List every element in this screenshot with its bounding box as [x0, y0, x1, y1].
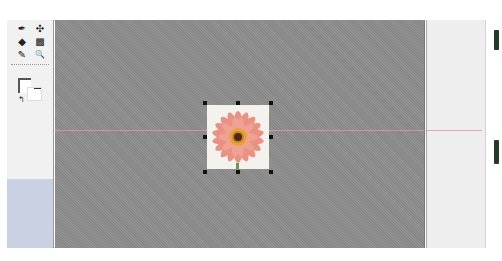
- resize-handle-bottom-left[interactable]: [203, 170, 207, 174]
- resize-handle-left[interactable]: [203, 135, 207, 139]
- side-marker-bottom: [494, 140, 499, 164]
- toolbox-panel: ✒ ✣ ◆ ▩ ✎ 🔍 ↰: [7, 20, 54, 248]
- resize-handle-bottom[interactable]: [236, 170, 240, 174]
- pen-tool-icon[interactable]: ✒: [13, 22, 31, 35]
- resize-handle-top-right[interactable]: [269, 101, 273, 105]
- eyedropper-tool-icon[interactable]: ✎: [13, 48, 31, 61]
- toolbox-blue-region: [7, 179, 53, 248]
- gradient-tool-icon[interactable]: ▩: [31, 35, 49, 48]
- toolbox-divider: [11, 64, 49, 65]
- resize-handle-bottom-right[interactable]: [269, 170, 273, 174]
- right-panel: [427, 20, 486, 248]
- fill-tool-icon[interactable]: ◆: [13, 35, 31, 48]
- stroke-none-indicator: [34, 88, 41, 89]
- gerbera-flower-image: [207, 105, 269, 169]
- swap-colors-icon[interactable]: ↰: [18, 95, 25, 104]
- resize-handle-top-left[interactable]: [203, 101, 207, 105]
- zoom-tool-icon[interactable]: 🔍: [31, 48, 49, 61]
- side-marker-top: [494, 30, 499, 50]
- placed-image[interactable]: [207, 105, 269, 169]
- color-swatches: ↰: [18, 78, 44, 104]
- resize-handle-top[interactable]: [236, 101, 240, 105]
- tool-grid: ✒ ✣ ◆ ▩ ✎ 🔍: [13, 22, 49, 61]
- direct-select-tool-icon[interactable]: ✣: [31, 22, 49, 35]
- resize-handle-right[interactable]: [269, 135, 273, 139]
- stroke-color-swatch[interactable]: [27, 87, 42, 101]
